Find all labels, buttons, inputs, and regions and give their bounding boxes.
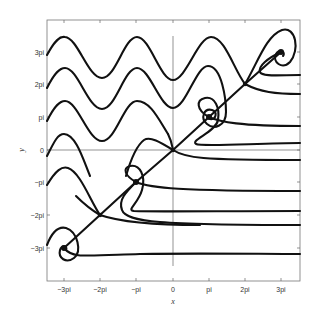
trajectory-curve: [136, 182, 300, 191]
trajectory-curve: [47, 134, 90, 176]
trajectory-curve: [125, 166, 300, 212]
x-tick-labels: −3pi −2pi −pi 0 pi 2pi 3pi: [57, 286, 286, 294]
x-tick-label: −2pi: [93, 286, 107, 294]
trajectory-curve: [64, 248, 300, 256]
trajectory-curve: [121, 182, 300, 225]
equilibrium-point: [98, 213, 102, 217]
phase-portrait-chart: −3pi −2pi −pi 0 pi 2pi 3pi 3pi 2pi pi 0 …: [0, 0, 319, 318]
equilibrium-point: [206, 114, 212, 120]
equilibrium-point: [243, 82, 247, 86]
y-axis-label: y: [17, 148, 26, 153]
trajectory-curve: [245, 84, 300, 94]
y-tick-label: pi: [39, 114, 45, 122]
trajectory-curve: [76, 196, 100, 215]
x-tick-label: −3pi: [57, 286, 71, 294]
equilibrium-point: [171, 148, 175, 152]
x-tick-label: −pi: [131, 286, 141, 294]
trajectories: [47, 30, 300, 261]
trajectory-curve: [47, 228, 78, 261]
trajectory-curve: [173, 150, 300, 160]
equilibrium-point: [61, 245, 67, 251]
x-axis-label: x: [170, 297, 175, 306]
x-tick-label: pi: [206, 286, 212, 294]
trajectory-curve: [209, 117, 300, 126]
y-tick-label: 0: [40, 147, 44, 154]
trajectory-curve: [47, 168, 100, 215]
trajectory-curve: [47, 66, 226, 127]
y-tick-label: 3pi: [35, 49, 45, 57]
x-tick-label: 3pi: [276, 286, 286, 294]
y-tick-label: −2pi: [31, 212, 45, 220]
x-tick-label: 0: [171, 286, 175, 293]
x-tick-label: 2pi: [240, 286, 250, 294]
y-tick-label: −3pi: [31, 245, 45, 253]
y-tick-labels: 3pi 2pi pi 0 −pi −2pi −3pi: [31, 49, 45, 253]
equilibrium-point: [278, 49, 284, 55]
y-tick-label: −pi: [34, 179, 44, 187]
trajectory-curve: [195, 98, 300, 145]
y-tick-label: 2pi: [35, 81, 45, 89]
equilibrium-point: [133, 179, 139, 185]
